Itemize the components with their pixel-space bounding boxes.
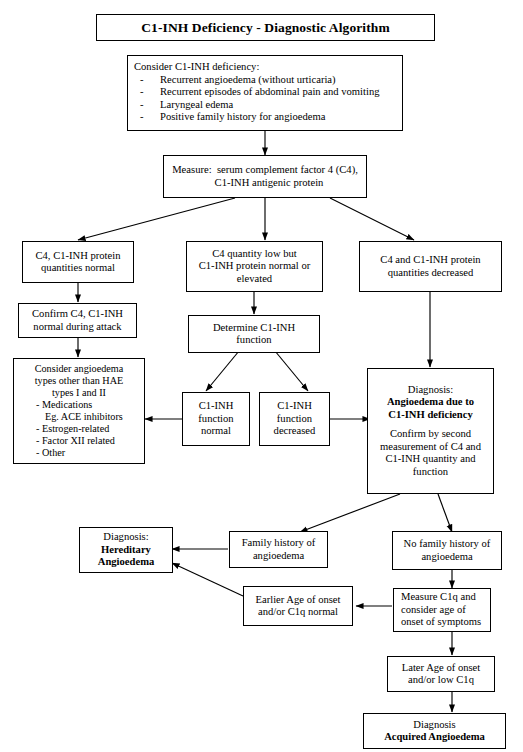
c4-decreased-line-2: quantities decreased xyxy=(388,267,474,280)
node-c4-normal: C4, C1-INH protein quantities normal xyxy=(22,241,134,283)
node-measure-c1q: Measure C1q and consider age of onset of… xyxy=(393,588,491,632)
list-item: - Factor XII related xyxy=(36,435,144,447)
function-decreased-line-1: C1-INH xyxy=(277,400,312,413)
measure-line-1: Measure: serum complement factor 4 (C4), xyxy=(172,164,358,177)
node-consider-other-types: Consider angioedema types other than HAE… xyxy=(13,358,145,464)
connector-measure-to-c4decreased xyxy=(330,198,414,240)
node-family-history: Family history of angioedema xyxy=(229,531,328,568)
list-item: -Positive family history for angioedema xyxy=(140,111,396,124)
node-function-decreased: C1-INH function decreased xyxy=(259,392,330,446)
diagnosis-hae-label: Diagnosis: xyxy=(103,531,148,544)
node-earlier-age-onset: Earlier Age of onset and/or C1q normal xyxy=(243,586,353,626)
no-family-history-line-2: angioedema xyxy=(421,551,472,564)
function-decreased-line-2: function xyxy=(277,413,312,426)
connector-determine-to-normal xyxy=(206,351,239,391)
node-measure: Measure: serum complement factor 4 (C4),… xyxy=(163,155,367,198)
dash-marker: - xyxy=(140,111,160,124)
confirm-attack-line-1: Confirm C4, C1-INH xyxy=(32,308,123,321)
page-title-text: C1-INH Deficiency - Diagnostic Algorithm xyxy=(141,20,389,36)
confirm-attack-line-2: normal during attack xyxy=(33,321,121,334)
list-item: -Recurrent episodes of abdominal pain an… xyxy=(140,86,396,99)
consider-deficiency-heading: Consider C1-INH deficiency: xyxy=(134,61,259,74)
dash-marker: - xyxy=(140,99,160,112)
diagnostic-algorithm-flowchart: C1-INH Deficiency - Diagnostic Algorithm… xyxy=(0,0,523,752)
connector-measure-to-c4normal xyxy=(78,198,235,240)
list-item-text: Recurrent angioedema (without urticaria) xyxy=(160,74,336,87)
node-diagnosis-c1inh-deficiency: Diagnosis: Angioedema due to C1-INH defi… xyxy=(367,368,494,494)
node-c4-decreased: C4 and C1-INH protein quantities decreas… xyxy=(359,241,502,292)
later-onset-line-2: and/or low C1q xyxy=(408,674,474,687)
consider-other-line-3: types I and II xyxy=(52,387,106,399)
determine-function-line-2: function xyxy=(236,334,271,347)
connector-diagnosis-to-nofamilyhistory xyxy=(438,494,452,532)
node-function-normal: C1-INH function normal xyxy=(182,392,250,446)
list-item-text: Positive family history for angioedema xyxy=(160,111,325,124)
function-decreased-line-3: decreased xyxy=(274,425,316,438)
c4-low-line-3: elevated xyxy=(237,273,272,286)
c4-normal-line-2: quantities normal xyxy=(41,262,115,275)
dash-marker: - xyxy=(140,86,160,99)
diagnosis-c1inh-bold-2: C1-INH deficiency xyxy=(388,409,472,422)
diagnosis-hae-bold-1: Hereditary xyxy=(101,544,151,557)
connector-determine-to-decreased xyxy=(275,351,308,391)
diagnosis-hae-bold-2: Angioedema xyxy=(98,556,155,569)
consider-other-line-2: types other than HAE xyxy=(35,375,124,387)
node-later-age-onset: Later Age of onset and/or low C1q xyxy=(387,656,495,692)
node-determine-function: Determine C1-INH function xyxy=(188,315,320,353)
diagnosis-aae-label: Diagnosis xyxy=(413,719,455,732)
diagnosis-aae-bold-1: Acquired Angioedema xyxy=(384,731,485,744)
measure-line-2: C1-INH antigenic protein xyxy=(207,177,324,190)
consider-deficiency-list: -Recurrent angioedema (without urticaria… xyxy=(134,74,396,124)
list-item-text: Laryngeal edema xyxy=(160,99,233,112)
diagnosis-c1inh-line-3: C1-INH quantity and xyxy=(385,453,475,466)
list-item: - Estrogen-related xyxy=(36,423,144,435)
earlier-onset-line-2: and/or C1q normal xyxy=(258,606,338,619)
determine-function-line-1: Determine C1-INH xyxy=(213,322,295,335)
page-title: C1-INH Deficiency - Diagnostic Algorithm xyxy=(96,14,435,41)
no-family-history-line-1: No family history of xyxy=(404,538,491,551)
family-history-line-2: angioedema xyxy=(253,550,304,563)
list-item: -Laryngeal edema xyxy=(140,99,396,112)
node-confirm-during-attack: Confirm C4, C1-INH normal during attack xyxy=(18,303,137,338)
node-diagnosis-hereditary-angioedema: Diagnosis: Hereditary Angioedema xyxy=(79,527,173,573)
list-item: Eg. ACE inhibitors xyxy=(36,411,144,423)
consider-other-list: - Medications Eg. ACE inhibitors - Estro… xyxy=(14,399,144,459)
family-history-line-1: Family history of xyxy=(242,537,316,550)
c4-normal-line-1: C4, C1-INH protein xyxy=(35,250,120,263)
node-c4-low: C4 quantity low but C1-INH protein norma… xyxy=(186,241,323,292)
diagnosis-c1inh-label: Diagnosis: xyxy=(408,384,453,397)
list-item: -Recurrent angioedema (without urticaria… xyxy=(140,74,396,87)
c4-decreased-line-1: C4 and C1-INH protein xyxy=(380,254,480,267)
function-normal-line-3: normal xyxy=(201,425,231,438)
dash-marker: - xyxy=(140,74,160,87)
diagnosis-c1inh-bold-1: Angioedema due to xyxy=(387,396,474,409)
earlier-onset-line-1: Earlier Age of onset xyxy=(255,594,340,607)
node-no-family-history: No family history of angioedema xyxy=(392,531,502,570)
c4-low-line-1: C4 quantity low but xyxy=(212,248,296,261)
consider-other-line-1: Consider angioedema xyxy=(35,363,124,375)
diagnosis-c1inh-line-2: measurement of C4 and xyxy=(380,441,481,454)
diagnosis-c1inh-line-1: Confirm by second xyxy=(390,428,471,441)
connector-diagnosis-to-familyhistory xyxy=(300,494,400,532)
node-diagnosis-acquired-angioedema: Diagnosis Acquired Angioedema xyxy=(363,713,506,749)
measure-c1q-line-1: Measure C1q and xyxy=(401,591,476,604)
measure-c1q-line-2: consider age of xyxy=(401,604,466,617)
measure-c1q-line-3: onset of symptoms xyxy=(401,616,481,629)
later-onset-line-1: Later Age of onset xyxy=(402,662,481,675)
function-normal-line-2: function xyxy=(198,413,233,426)
list-item: - Other xyxy=(36,447,144,459)
node-consider-deficiency: Consider C1-INH deficiency: -Recurrent a… xyxy=(127,55,403,131)
list-item: - Medications xyxy=(36,399,144,411)
diagnosis-c1inh-line-4: function xyxy=(413,466,448,479)
c4-low-line-2: C1-INH protein normal or xyxy=(199,260,311,273)
list-item-text: Recurrent episodes of abdominal pain and… xyxy=(160,86,379,99)
function-normal-line-1: C1-INH xyxy=(199,400,234,413)
